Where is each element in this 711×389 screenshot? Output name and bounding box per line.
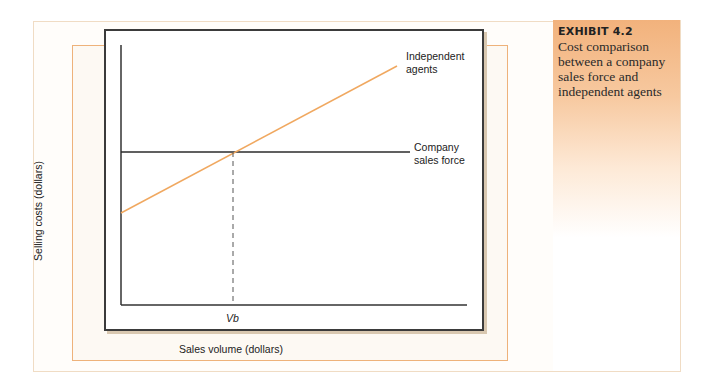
y-axis-label: Selling costs (dollars) — [32, 141, 44, 281]
x-axis-label: Sales volume (dollars) — [179, 343, 283, 356]
independent-agents-line — [121, 66, 397, 213]
independent-agents-label: Independent agents — [406, 50, 464, 76]
company-sales-force-label: Company sales force — [414, 141, 465, 167]
vb-tick-label: Vb — [226, 312, 239, 325]
exhibit-caption-box: EXHIBIT 4.2 Cost comparison between a co… — [553, 20, 681, 372]
exhibit-caption: Cost comparison between a company sales … — [558, 39, 680, 99]
exhibit-title: EXHIBIT 4.2 — [558, 25, 680, 38]
